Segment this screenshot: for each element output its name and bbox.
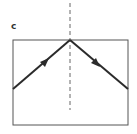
reflection-diagram	[0, 0, 137, 134]
incident-ray	[13, 40, 70, 89]
reflected-ray	[70, 40, 128, 89]
